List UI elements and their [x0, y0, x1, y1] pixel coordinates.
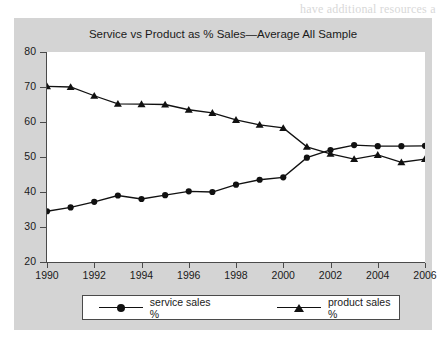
chart-legend: service sales % product sales % [82, 295, 400, 320]
y-axis-tick-label: 80 [12, 45, 36, 57]
plot-svg [47, 52, 425, 262]
x-axis-tick [283, 263, 284, 268]
y-axis-tick-label: 20 [12, 255, 36, 267]
series-service-sales [47, 142, 425, 214]
x-axis-tick [189, 263, 190, 268]
y-axis-tick-label: 50 [12, 150, 36, 162]
y-axis-tick-label: 70 [12, 80, 36, 92]
data-point-circle [138, 196, 144, 202]
plot-area [47, 52, 425, 262]
x-axis-tick [331, 263, 332, 268]
bleed-text-line: have additional resources a [300, 2, 436, 17]
x-axis-tick [378, 263, 379, 268]
y-axis-tick [40, 87, 46, 88]
series-line [47, 145, 425, 211]
y-axis-tick [40, 227, 46, 228]
data-point-triangle [421, 155, 425, 162]
y-axis-tick [40, 192, 46, 193]
data-point-circle [68, 204, 74, 210]
x-axis-tick [236, 263, 237, 268]
data-point-circle [280, 174, 286, 180]
y-axis-tick [40, 122, 46, 123]
data-point-circle [115, 192, 121, 198]
x-axis-tick-label: 1992 [74, 269, 114, 281]
chart-title: Service vs Product as % Sales—Average Al… [14, 28, 432, 40]
y-axis-tick [40, 262, 46, 263]
data-point-circle [304, 155, 310, 161]
x-axis-tick [425, 263, 426, 268]
data-point-triangle [374, 151, 382, 158]
legend-item-product-sales[interactable]: product sales % [277, 296, 399, 319]
data-point-circle [233, 182, 239, 188]
x-axis-tick-label: 1998 [216, 269, 256, 281]
y-axis-tick-label: 60 [12, 115, 36, 127]
x-axis-tick [47, 263, 48, 268]
series-product-sales [47, 83, 425, 166]
y-axis-tick [40, 157, 46, 158]
data-point-circle [375, 143, 381, 149]
data-point-circle [91, 199, 97, 205]
chart-figure: Service vs Product as % Sales—Average Al… [14, 18, 432, 330]
x-axis-tick-label: 1996 [169, 269, 209, 281]
data-point-circle [209, 189, 215, 195]
x-axis-tick [94, 263, 95, 268]
data-point-circle [162, 192, 168, 198]
x-axis-tick-label: 2002 [311, 269, 351, 281]
legend-item-service-sales[interactable]: service sales % [99, 296, 219, 319]
data-point-circle [398, 143, 404, 149]
legend-label-product-sales: product sales % [328, 296, 399, 320]
y-axis-tick-label: 30 [12, 220, 36, 232]
x-axis-tick-label: 2006 [405, 269, 445, 281]
data-point-circle [186, 188, 192, 194]
x-axis-tick-label: 2000 [263, 269, 303, 281]
circle-marker-icon [99, 302, 141, 314]
data-point-circle [47, 208, 50, 214]
data-point-circle [422, 143, 425, 149]
y-axis-tick-label: 40 [12, 185, 36, 197]
series-line [47, 86, 425, 162]
x-axis-tick [142, 263, 143, 268]
x-axis-tick-label: 2004 [358, 269, 398, 281]
x-axis-tick-label: 1990 [27, 269, 67, 281]
triangle-marker-icon [277, 302, 319, 314]
y-axis-tick [40, 52, 46, 53]
x-axis-tick-label: 1994 [122, 269, 162, 281]
data-point-circle [351, 142, 357, 148]
legend-label-service-sales: service sales % [150, 296, 219, 320]
data-point-circle [257, 177, 263, 183]
